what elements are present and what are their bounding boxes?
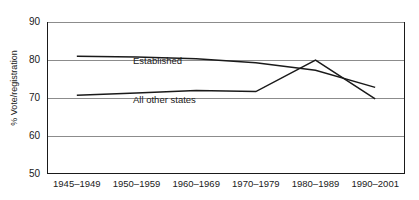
y-tick-label-50: 50 <box>18 169 40 179</box>
x-tick-label-3: 1970–1979 <box>226 178 286 192</box>
gridlines <box>47 23 405 137</box>
x-tick-label-2: 1960–1969 <box>166 178 226 192</box>
y-tick-label-60: 60 <box>18 131 40 141</box>
y-tick-label-70: 70 <box>18 93 40 103</box>
x-tick-label-5: 1990–2001 <box>345 178 405 192</box>
series-lines <box>77 56 375 99</box>
plot-area: Established All other states <box>47 22 405 174</box>
y-tick-label-90: 90 <box>18 17 40 27</box>
y-axis-tick-labels: 90 80 70 60 50 <box>18 0 40 200</box>
y-tick-label-80: 80 <box>18 55 40 65</box>
series-label-established: Established <box>133 55 182 66</box>
series-label-all-other-states: All other states <box>133 94 196 105</box>
x-tick-label-1: 1950–1959 <box>107 178 167 192</box>
plot-svg <box>47 22 405 174</box>
x-tick-label-4: 1980–1989 <box>286 178 346 192</box>
x-tick-label-0: 1945–1949 <box>47 178 107 192</box>
series-line-all-other-states <box>77 60 375 99</box>
x-axis-tick-labels: 1945–19491950–19591960–19691970–19791980… <box>47 178 405 192</box>
chart-container: % Vote/registration 90 80 70 60 50 Estab… <box>0 0 419 200</box>
